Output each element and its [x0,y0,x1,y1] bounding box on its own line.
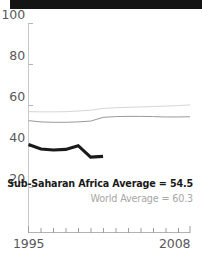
annotation-ssa-average: Sub-Saharan Africa Average = 54.5 [7,178,193,189]
chart-figure: 20 40 60 80 100 1995 2008 [0,0,202,260]
plot-area [0,0,202,260]
annotation-world-average: World Average = 60.3 [91,193,193,204]
x-tick-marks [29,226,191,233]
series-line-ssa [29,144,104,157]
series-line-developing [29,116,191,122]
series-line-world [29,105,191,112]
